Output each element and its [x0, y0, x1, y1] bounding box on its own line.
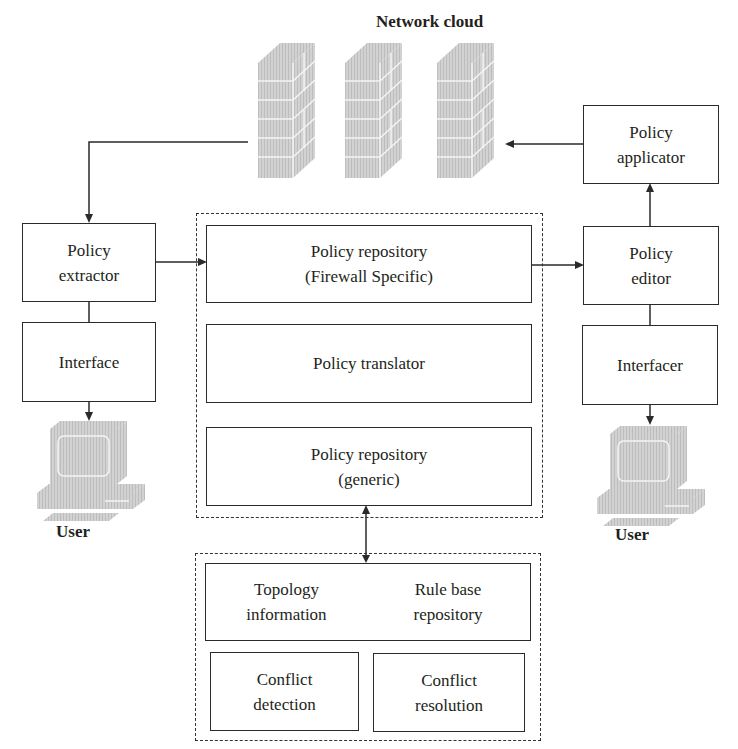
firewall-icon: [258, 43, 315, 178]
firewall-policy-architecture-diagram: Network cloud: [0, 0, 738, 749]
policy-repository-firewall-specific-box: Policy repository (Firewall Specific): [206, 225, 532, 303]
box-label: applicator: [617, 145, 685, 170]
box-label: Conflict: [257, 667, 313, 692]
box-label: Policy: [629, 120, 672, 145]
conflict-detection-box: Conflict detection: [210, 652, 359, 731]
box-label: Interface: [59, 350, 119, 375]
box-label: Topology: [254, 577, 319, 602]
box-label: Policy repository: [311, 239, 428, 264]
box-label: (Firewall Specific): [305, 264, 433, 289]
firewall-icon: [437, 43, 494, 178]
interfacer-box: Interfacer: [582, 325, 718, 405]
interface-box: Interface: [22, 322, 156, 402]
firewall-icon: [345, 43, 402, 178]
box-label: Policy: [629, 241, 672, 266]
box-label: Rule base: [415, 577, 482, 602]
user-label-right: User: [615, 525, 649, 545]
box-label: information: [246, 602, 326, 627]
box-label: editor: [631, 266, 671, 291]
conflict-resolution-box: Conflict resolution: [373, 653, 525, 732]
box-label: extractor: [59, 263, 119, 288]
box-label: Policy translator: [313, 351, 425, 376]
box-label: Interfacer: [617, 353, 683, 378]
policy-editor-box: Policy editor: [583, 226, 719, 305]
box-label: repository: [414, 602, 483, 627]
box-label: detection: [253, 692, 315, 717]
box-label: (generic): [338, 467, 399, 492]
box-label: resolution: [415, 693, 483, 718]
box-label: Conflict: [421, 668, 477, 693]
rule-base-repository-box: Rule base repository: [366, 563, 531, 641]
topology-information-box: Topology information: [205, 563, 367, 641]
user-label-left: User: [56, 522, 90, 542]
box-label: Policy repository: [311, 442, 428, 467]
policy-translator-box: Policy translator: [206, 324, 532, 403]
policy-applicator-box: Policy applicator: [583, 105, 719, 184]
box-label: Policy: [67, 238, 110, 263]
policy-extractor-box: Policy extractor: [22, 223, 156, 302]
policy-repository-generic-box: Policy repository (generic): [206, 427, 532, 506]
computer-icon: [597, 426, 705, 526]
computer-icon: [37, 421, 145, 521]
